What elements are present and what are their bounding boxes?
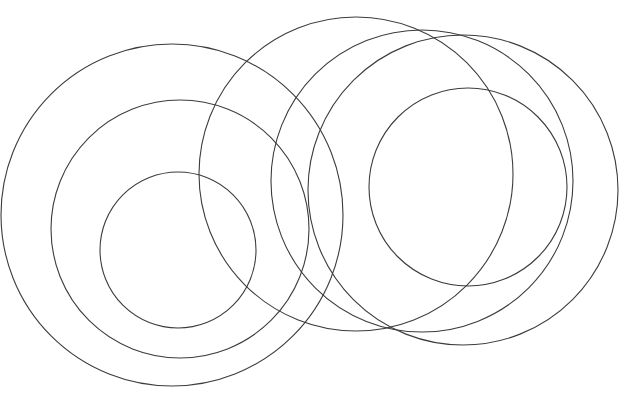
figure-background: [0, 0, 634, 406]
figure-canvas: Left cluster — outer circleLeft cluster …: [0, 0, 634, 406]
circle-figure: Left cluster — outer circleLeft cluster …: [0, 0, 634, 406]
